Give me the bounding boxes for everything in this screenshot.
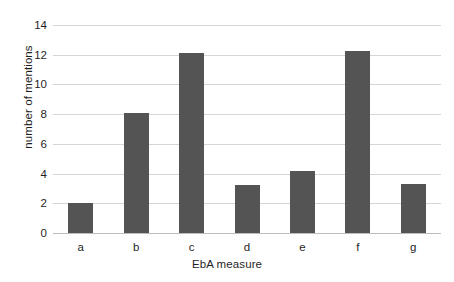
bar <box>179 53 204 233</box>
x-axis-tick-label: a <box>61 241 101 253</box>
y-axis-tick-label: 0 <box>41 227 47 239</box>
bar <box>290 171 315 233</box>
bar <box>68 203 93 233</box>
axis-baseline <box>53 233 441 234</box>
x-axis-tick-label: c <box>172 241 212 253</box>
y-axis-tick-label: 14 <box>34 19 47 31</box>
y-axis-tick-label: 4 <box>41 168 47 180</box>
y-axis-tick-label: 10 <box>34 78 47 90</box>
bar <box>401 184 426 233</box>
bar <box>235 185 260 233</box>
x-axis-title: EbA measure <box>0 258 454 270</box>
y-axis-tick-label: 6 <box>41 138 47 150</box>
x-axis-tick-label: f <box>338 241 378 253</box>
y-axis-tick-label: 12 <box>34 49 47 61</box>
y-axis-tick-label: 8 <box>41 108 47 120</box>
plot-area: 02468101214 <box>53 25 441 233</box>
y-axis-tick-label: 2 <box>41 197 47 209</box>
x-axis-tick-label: d <box>227 241 267 253</box>
x-axis-tick-label: g <box>393 241 433 253</box>
bar-series <box>53 25 441 233</box>
bar-chart: number of mentions 02468101214 abcdefg E… <box>0 0 454 282</box>
bar <box>345 51 370 233</box>
bar <box>124 113 149 233</box>
x-axis-tick-label: b <box>116 241 156 253</box>
y-axis-title: number of mentions <box>22 17 34 177</box>
x-axis-tick-label: e <box>282 241 322 253</box>
